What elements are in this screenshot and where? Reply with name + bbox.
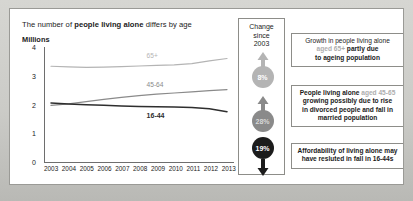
x-tick-2013: 2013 <box>222 165 236 172</box>
change-heading-line1: Change <box>239 23 284 32</box>
x-tick-2012: 2012 <box>204 165 218 172</box>
y-tick-4: 4 <box>22 44 36 51</box>
x-tick-2010: 2010 <box>169 165 183 172</box>
x-tick-2008: 2008 <box>133 165 147 172</box>
series-label-45-64: 45-64 <box>147 81 164 88</box>
change-indicator-16-44: 19% <box>239 139 286 176</box>
callout2-line3: in divorced people and fall in <box>302 106 393 113</box>
callout-65plus: Growth in people living alone aged 65+ p… <box>291 33 404 67</box>
callout2-line2: growing possibly due to rise <box>303 97 392 104</box>
y-tick-2: 2 <box>22 101 36 108</box>
x-tick-2006: 2006 <box>97 165 111 172</box>
callout1-line1: Growth in people living alone <box>305 37 390 44</box>
callout3-line2: have resluted in fall in 16-44s <box>302 155 394 162</box>
y-tick-1: 1 <box>22 130 36 137</box>
change-indicator-65plus: 8% <box>239 52 286 88</box>
line-chart: 01234 65+45-6416-44 20032004200520062007… <box>22 43 240 175</box>
change-indicator-45-64: 28% <box>239 96 286 132</box>
series-lines <box>44 47 234 162</box>
change-heading-line3: 2003 <box>239 40 284 49</box>
x-axis-ticks: 2003200420052006200720082009201020112012… <box>44 165 236 172</box>
callout2-line4: married population <box>318 114 378 121</box>
x-tick-2007: 2007 <box>115 165 129 172</box>
plot-area: 65+45-6416-44 <box>44 47 234 162</box>
x-tick-2003: 2003 <box>44 165 58 172</box>
callout-16-44: Affordability of living alone may have r… <box>291 143 404 169</box>
x-tick-2011: 2011 <box>187 165 201 172</box>
x-tick-2005: 2005 <box>80 165 94 172</box>
outer-frame: The number of people living alone differ… <box>0 0 413 201</box>
title-emphasis: people living alone <box>74 20 143 29</box>
x-tick-2009: 2009 <box>151 165 165 172</box>
change-circle-19%: 19% <box>252 137 274 159</box>
callout2-highlight: aged 45-65 <box>361 89 395 96</box>
y-tick-3: 3 <box>22 72 36 79</box>
x-axis-line <box>44 162 234 163</box>
series-line-45-64 <box>51 90 227 106</box>
change-since-column: Change since 2003 8% 28% 19% <box>238 18 285 175</box>
x-tick-2004: 2004 <box>62 165 76 172</box>
chart-panel: The number of people living alone differ… <box>9 8 404 185</box>
callout3-line1: Affordability of living alone may <box>297 147 397 154</box>
callout2-line1: People living alone <box>300 89 360 96</box>
page-title: The number of people living alone differ… <box>22 20 192 29</box>
series-label-65+: 65+ <box>147 52 158 59</box>
change-column-heading: Change since 2003 <box>239 19 284 49</box>
change-circle-28%: 28% <box>252 110 274 132</box>
arrow-down-icon <box>257 159 269 176</box>
callout1-line3: to ageing population <box>315 54 380 61</box>
series-line-65+ <box>51 59 227 68</box>
series-line-16-44 <box>51 103 227 112</box>
y-tick-0: 0 <box>22 159 36 166</box>
callout-45-64: People living alone aged 45-65 growing p… <box>291 85 404 127</box>
change-heading-line2: since <box>239 32 284 41</box>
change-circle-8%: 8% <box>252 66 274 88</box>
callout1-highlight: aged 65+ <box>317 45 345 52</box>
callout1-line2-rest: partly due <box>345 45 378 52</box>
series-label-16-44: 16-44 <box>147 112 165 119</box>
title-suffix: differs by age <box>144 20 192 29</box>
title-prefix: The number of <box>22 20 74 29</box>
